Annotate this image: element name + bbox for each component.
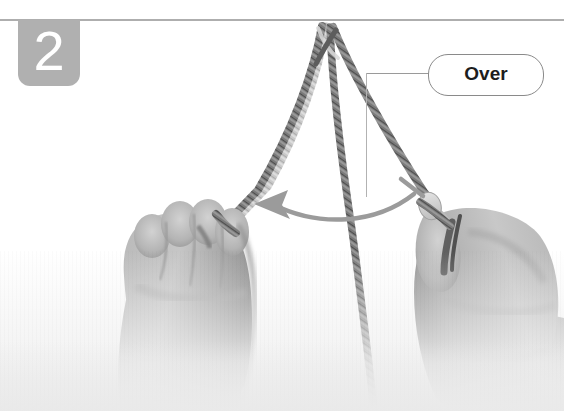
left-hand bbox=[118, 199, 254, 411]
header-rule bbox=[0, 19, 564, 21]
figure-canvas: 2 Over bbox=[0, 0, 564, 411]
right-hand bbox=[414, 189, 564, 411]
step-number-badge: 2 bbox=[18, 20, 80, 86]
rope-group bbox=[235, 26, 437, 411]
callout-leader-vertical bbox=[366, 73, 367, 197]
callout-leader-horizontal bbox=[367, 73, 429, 74]
callout-label-over: Over bbox=[428, 54, 544, 96]
